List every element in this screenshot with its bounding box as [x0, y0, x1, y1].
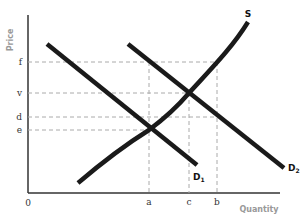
demand1-label-sub: 1	[200, 176, 204, 183]
demand2-label: D2	[288, 163, 300, 174]
quantity-label-b: b	[214, 197, 220, 207]
demand2-label-sub: 2	[295, 167, 299, 174]
price-label-v: v	[16, 88, 23, 98]
price-label-f: f	[19, 57, 23, 67]
price-label-d: d	[16, 112, 22, 122]
demand1-label: D1	[193, 172, 205, 183]
price-label-e: e	[17, 125, 22, 135]
demand-curve-d2	[128, 44, 284, 168]
quantity-label-c: c	[186, 197, 191, 207]
demand1-label-main: D	[193, 172, 200, 182]
y-axis-title: Price	[6, 28, 15, 51]
supply-label: S	[245, 9, 251, 19]
quantity-label-a: a	[146, 197, 152, 207]
origin-label: 0	[25, 198, 31, 208]
demand2-label-main: D	[288, 163, 295, 173]
supply-curve	[78, 22, 248, 183]
supply-demand-diagram: Price Quantity 0 f v d e a c b S D1 D2	[0, 0, 306, 220]
quantity-guides	[149, 62, 217, 193]
x-axis-title: Quantity	[239, 205, 279, 214]
